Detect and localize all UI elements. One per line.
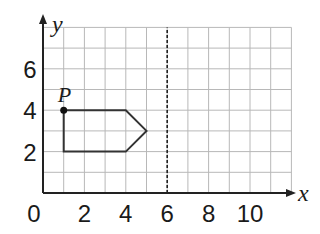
y-axis-label: y <box>50 11 63 37</box>
svg-text:10: 10 <box>237 200 264 227</box>
y-axis-arrow-icon <box>39 14 47 24</box>
coordinate-plane: P x y 0246810 246 <box>0 0 320 234</box>
x-tick-labels: 0246810 <box>27 200 263 227</box>
svg-text:0: 0 <box>27 200 40 227</box>
svg-text:2: 2 <box>23 139 36 166</box>
y-tick-labels: 246 <box>23 56 36 166</box>
svg-text:4: 4 <box>23 97 36 124</box>
point-p <box>60 107 67 114</box>
svg-text:2: 2 <box>78 200 91 227</box>
svg-text:6: 6 <box>161 200 174 227</box>
svg-text:8: 8 <box>202 200 215 227</box>
svg-text:4: 4 <box>119 200 132 227</box>
point-p-label: P <box>57 82 71 107</box>
x-axis-label: x <box>297 180 309 206</box>
svg-text:6: 6 <box>23 56 36 83</box>
